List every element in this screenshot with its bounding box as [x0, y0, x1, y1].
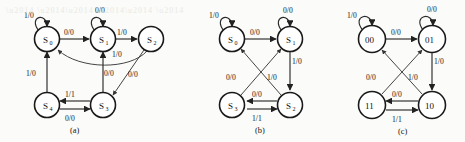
edge-label-b-s1-self: 0/0	[283, 6, 293, 15]
edge-label-a-s3-s4: 1/1	[65, 90, 75, 99]
edge-label-a-s2-s0: 1/0	[112, 50, 122, 59]
caption-panel-c: (c)	[398, 127, 408, 136]
edge-label-a-s3-s1: 0/0	[104, 69, 114, 78]
node-a-s0-sub: 0	[50, 40, 53, 46]
panel-c: 1/0 0/0 0/0 1/0 1/0 0/0 0/0 1/1 00 01	[347, 5, 446, 136]
edge-label-a-s1-s2: 1/0	[117, 28, 127, 37]
node-a-s4-sub: 4	[50, 106, 53, 112]
node-b-s1-label: S	[286, 35, 291, 45]
node-b-s2-sub: 2	[293, 106, 296, 112]
paper-bleed-text: \u2014 \u2014\u2014 \u2014\u2014 \u2014	[6, 6, 184, 15]
caption-panel-a: (a)	[70, 126, 80, 135]
node-b-s3[interactable]: S 3	[220, 93, 245, 118]
edge-label-c-n00-n01: 0/0	[391, 28, 401, 37]
node-b-s3-sub: 3	[235, 106, 238, 112]
edge-label-a-s4-s3: 0/0	[65, 114, 75, 123]
edge-label-c-n10-n11: 0/0	[392, 90, 402, 99]
node-a-s0-label: S	[43, 35, 48, 45]
node-c-n11-label: 11	[365, 101, 374, 111]
node-a-s1-sub: 1	[106, 40, 109, 46]
node-b-s0-label: S	[228, 35, 233, 45]
edge-label-c-n01-n10: 1/0	[434, 57, 444, 66]
edge-label-c-n10-n00: 1/0	[408, 73, 418, 82]
edge-label-b-s0-self: 1/0	[209, 11, 219, 20]
edge-label-a-s0-s1: 0/0	[64, 28, 74, 37]
edge-label-a-s4-s0: 1/0	[26, 69, 36, 78]
edge-label-b-s2-s3: 0/0	[252, 90, 262, 99]
caption-panel-b: (b)	[255, 126, 265, 135]
edge-label-a-s2-s3: 0/0	[128, 70, 138, 79]
panel-a: 1/0 0/0 0/0 1/0 1/0 0/0 0/0 1/0	[24, 6, 164, 135]
node-c-n10[interactable]: 10	[419, 92, 446, 119]
node-a-s1[interactable]: S 1	[91, 27, 116, 52]
edge-label-c-n11-n01: 0/0	[366, 73, 376, 82]
panel-b: 1/0 0/0 0/0 1/0 1/0 0/0 0/0 1/1 S 0 S	[209, 6, 303, 135]
edge-label-b-s0-s1: 0/0	[250, 28, 260, 37]
node-a-s3-label: S	[99, 101, 104, 111]
edge-label-c-n00-self: 1/0	[347, 11, 357, 20]
node-a-s3-sub: 3	[106, 106, 109, 112]
node-b-s0[interactable]: S 0	[220, 27, 245, 52]
node-b-s0-sub: 0	[235, 40, 238, 46]
node-c-n01-label: 01	[425, 35, 434, 45]
figure-canvas: \u2014 \u2014\u2014 \u2014\u2014 \u2014 …	[0, 0, 465, 142]
edge-label-b-s3-s1: 0/0	[226, 73, 236, 82]
state-diagrams-svg: 1/0 0/0 0/0 1/0 1/0 0/0 0/0 1/0	[0, 0, 465, 142]
node-a-s2-sub: 2	[154, 40, 157, 46]
node-a-s2[interactable]: S 2	[139, 27, 164, 52]
node-a-s4[interactable]: S 4	[35, 93, 60, 118]
node-b-s1-sub: 1	[293, 40, 296, 46]
node-b-s2-label: S	[286, 101, 291, 111]
edge-label-c-n01-self: 0/0	[427, 5, 437, 14]
node-c-n11[interactable]: 11	[359, 92, 386, 119]
node-a-s4-label: S	[43, 101, 48, 111]
node-a-s3[interactable]: S 3	[91, 93, 116, 118]
node-a-s0[interactable]: S 0	[35, 27, 60, 52]
node-c-n01[interactable]: 01	[419, 26, 446, 53]
edge-label-b-s3-s2: 1/1	[252, 114, 262, 123]
node-c-n00-label: 00	[365, 35, 375, 45]
node-b-s3-label: S	[228, 101, 233, 111]
node-c-n10-label: 10	[425, 101, 435, 111]
node-a-s2-label: S	[147, 35, 152, 45]
node-c-n00[interactable]: 00	[359, 26, 386, 53]
node-a-s1-label: S	[99, 35, 104, 45]
edge-label-b-s1-s2: 1/0	[292, 57, 302, 66]
edge-label-c-n11-n10: 1/1	[392, 115, 402, 124]
node-b-s2[interactable]: S 2	[278, 93, 303, 118]
edge-label-b-s2-s0: 1/0	[267, 73, 277, 82]
node-b-s1[interactable]: S 1	[278, 27, 303, 52]
